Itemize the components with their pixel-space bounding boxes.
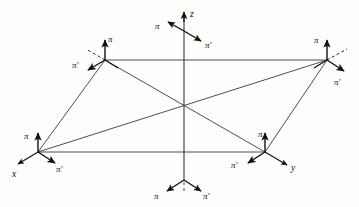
pi-prime-arrow [248,152,265,163]
z-axis-label: z [189,9,194,19]
frame-stub [105,60,118,68]
pi-label: π [154,191,159,201]
y-axis-label: y [290,163,296,173]
pi-prime-arrow [327,60,344,71]
pi-prime-label: π′ [56,164,64,174]
pi-prime-label: π′ [334,77,342,87]
pi-prime-arrow [184,31,201,41]
pi-label: π [314,35,319,45]
pi-frame-z-axis-bottom: π π′ [154,180,211,201]
pi-frame-vertex-bottom-left: π x π′ [11,131,64,179]
pi-label: π [108,34,113,44]
dashed-guide [327,49,347,60]
parallelogram-diagonals [38,60,327,152]
frame-stub [314,60,327,68]
edge-left [38,60,105,152]
pi-frame-vertex-top-left: π π′ [72,34,118,70]
x-axis-label: x [11,169,17,179]
pi-prime-label: π′ [231,160,239,170]
diagonal-bl-tr [38,60,327,152]
pi-arrow [168,22,184,31]
pi-prime-arrow [184,180,201,191]
diagonal-tl-br [105,60,265,152]
x-axis-arrow [18,152,38,164]
pi-prime-arrow [38,152,55,163]
pi-label: π [258,129,263,139]
pi-prime-label: π′ [203,191,211,201]
pi-frame-vertex-top-right: π π′ [314,35,347,87]
pi-prime-label: π′ [205,40,213,50]
pi-orientation-svg: z π π′ π π′ π π′ [0,0,359,207]
pi-prime-arrow [88,60,105,70]
dashed-guide [86,49,105,60]
pi-label: π [24,131,29,141]
y-axis-arrow [265,152,287,165]
pi-arrow [167,180,184,191]
diagram-canvas: z π π′ π π′ π π′ [0,0,359,207]
pi-label: π [155,21,160,31]
edge-right [265,60,327,152]
pi-prime-label: π′ [72,60,80,70]
